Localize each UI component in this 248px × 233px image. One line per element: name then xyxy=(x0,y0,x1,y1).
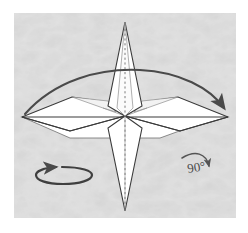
diagram-canvas: 90° xyxy=(0,0,248,233)
origami-diagram: 90° xyxy=(0,0,248,233)
rotate-90-degrees-label: 90° xyxy=(186,158,206,176)
